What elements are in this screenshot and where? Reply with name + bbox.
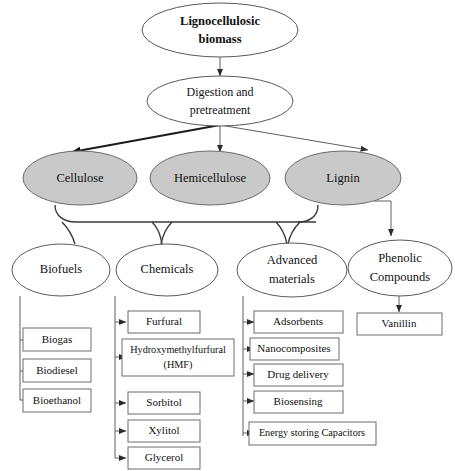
bus-cellulose-to-categories (55, 205, 316, 222)
leaf-nanocomposites[interactable]: Nanocomposites (250, 338, 339, 360)
process-label-line1: Digestion and (187, 85, 254, 99)
hmf-label-line2: (HMF) (164, 359, 193, 371)
drop-to-biofuels (62, 222, 75, 244)
drop-to-advanced-left (288, 222, 300, 244)
phenolic-compounds-ellipse-shape (348, 240, 452, 296)
link-lignin-to-phenolic (374, 201, 391, 236)
leaf-adsorbents[interactable]: Adsorbents (254, 311, 343, 333)
leaf-hydroxymethylfurfural[interactable]: Hydroxymethylfurfural (HMF) (122, 339, 234, 376)
advanced-materials-ellipse-shape (237, 243, 347, 297)
node-chemicals[interactable]: Chemicals (116, 244, 218, 296)
drop-to-advanced-right (276, 222, 287, 244)
furfural-label: Furfural (146, 315, 182, 327)
phenolic-compounds-label-line2: Compounds (370, 270, 431, 284)
leaf-furfural[interactable]: Furfural (128, 311, 200, 333)
biodiesel-label: Biodiesel (36, 364, 78, 376)
root-label-line2: biomass (198, 32, 241, 46)
chemicals-label: Chemicals (141, 262, 194, 276)
biogas-label: Biogas (42, 333, 73, 345)
flowchart-canvas: Lignocellulosic biomass Digestion and pr… (0, 0, 455, 471)
biofuels-label: Biofuels (40, 262, 82, 276)
drop-to-chemicals-left (161, 222, 172, 244)
node-lignin[interactable]: Lignin (285, 151, 401, 205)
link-process-to-cellulose (72, 125, 220, 152)
vanillin-label: Vanillin (382, 317, 417, 329)
leaf-xylitol[interactable]: Xylitol (128, 420, 200, 442)
leaf-biogas[interactable]: Biogas (23, 328, 91, 351)
nanocomposites-label: Nanocomposites (257, 342, 330, 354)
leaf-energy-storing-capacitors[interactable]: Energy storing Capacitors (249, 422, 376, 445)
node-lignocellulosic-biomass[interactable]: Lignocellulosic biomass (142, 3, 298, 57)
lignin-label: Lignin (326, 171, 360, 185)
node-advanced-materials[interactable]: Advanced materials (237, 243, 347, 297)
link-process-to-lignin (220, 125, 368, 150)
cellulose-label: Cellulose (56, 171, 104, 185)
phenolic-compounds-label-line1: Phenolic (378, 251, 422, 265)
process-label-line2: pretreatment (190, 103, 251, 117)
advanced-materials-label-line1: Advanced (267, 253, 318, 267)
node-biofuels[interactable]: Biofuels (12, 244, 110, 296)
energy-storing-capacitors-label: Energy storing Capacitors (259, 427, 365, 438)
advanced-materials-label-line2: materials (269, 272, 315, 286)
root-label-line1: Lignocellulosic (180, 14, 260, 28)
leaf-vanillin[interactable]: Vanillin (357, 313, 442, 335)
process-ellipse-shape (147, 76, 293, 126)
node-digestion-and-pretreatment[interactable]: Digestion and pretreatment (147, 76, 293, 126)
leaf-glycerol[interactable]: Glycerol (128, 447, 200, 469)
hemicellulose-label: Hemicellulose (174, 171, 247, 185)
node-phenolic-compounds[interactable]: Phenolic Compounds (348, 240, 452, 296)
leaf-bioethanol[interactable]: Bioethanol (23, 389, 91, 412)
root-ellipse-shape (142, 3, 298, 57)
leaf-sorbitol[interactable]: Sorbitol (128, 392, 200, 414)
bus-lignin-to-categories (298, 205, 318, 222)
glycerol-label: Glycerol (145, 451, 183, 463)
node-hemicellulose[interactable]: Hemicellulose (150, 151, 270, 205)
biosensing-label: Biosensing (274, 395, 323, 407)
bioethanol-label: Bioethanol (33, 394, 81, 406)
leaf-biodiesel[interactable]: Biodiesel (23, 359, 91, 382)
hmf-label-line1: Hydroxymethylfurfural (130, 344, 226, 355)
sorbitol-label: Sorbitol (146, 396, 181, 408)
leaf-biosensing[interactable]: Biosensing (254, 391, 343, 413)
drop-to-chemicals-right (152, 222, 162, 244)
adsorbents-label: Adsorbents (273, 315, 323, 327)
xylitol-label: Xylitol (148, 424, 179, 436)
node-cellulose[interactable]: Cellulose (23, 151, 137, 205)
drug-delivery-label: Drug delivery (267, 368, 329, 380)
leaf-drug-delivery[interactable]: Drug delivery (254, 364, 343, 386)
